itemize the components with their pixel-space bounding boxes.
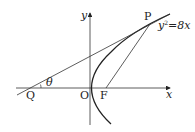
segment-PF [106,24,150,88]
angle-arc [41,85,42,89]
parabola-diagram: P Q O F θ x y y2=8x [0,0,195,132]
label-Q: Q [26,89,35,102]
label-F: F [100,89,108,102]
label-x-axis: x [166,88,173,101]
label-P: P [144,10,152,23]
label-theta: θ [46,76,53,89]
tangent-line-QP [17,14,170,95]
label-y-axis: y [80,9,88,22]
label-O: O [80,89,89,102]
equation-label: y2=8x [157,19,191,32]
